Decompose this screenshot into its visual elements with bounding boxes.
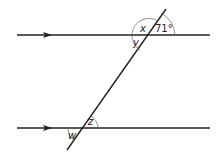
label-w: w bbox=[68, 130, 77, 141]
parallel-lines-diagram: x y 71° z w bbox=[0, 0, 216, 159]
transversal-line bbox=[67, 9, 166, 150]
label-y: y bbox=[132, 37, 140, 48]
label-71: 71° bbox=[155, 23, 173, 34]
label-z: z bbox=[87, 116, 94, 127]
label-x: x bbox=[139, 23, 146, 34]
